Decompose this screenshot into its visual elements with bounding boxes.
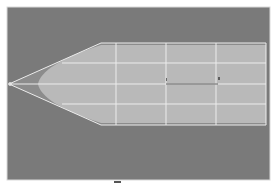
node-mark [166,78,167,81]
caption-glyph [114,181,121,183]
figure-caption [0,178,274,186]
mesh-diagram [0,0,274,186]
node-mark [218,77,220,80]
